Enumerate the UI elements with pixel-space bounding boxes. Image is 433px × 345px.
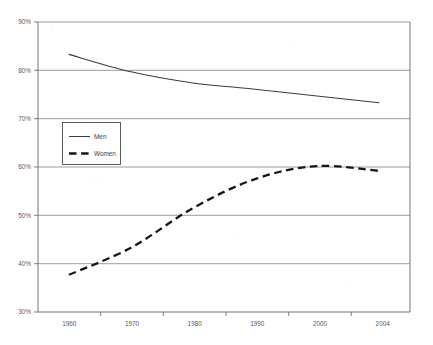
ytick-label-30: 30% xyxy=(18,308,31,315)
y-axis-ticks: 90% 80% 70% 60% 50% 40% 30% xyxy=(18,18,38,315)
xtick-label-1980: 1980 xyxy=(188,320,203,327)
line-chart: 90% 80% 70% 60% 50% 40% 30% 1960 1970 19… xyxy=(0,0,433,345)
ytick-label-60: 60% xyxy=(18,163,31,170)
x-axis-ticks: 1960 1970 1980 1990 2000 2004 xyxy=(62,312,390,327)
xtick-label-2004: 2004 xyxy=(376,320,391,327)
legend-box xyxy=(63,123,121,165)
ytick-label-70: 70% xyxy=(18,115,31,122)
legend-label-women: Women xyxy=(94,150,116,157)
xtick-label-1990: 1990 xyxy=(250,320,265,327)
series-line-women xyxy=(69,166,379,275)
xtick-label-1970: 1970 xyxy=(125,320,140,327)
chart-canvas: 90% 80% 70% 60% 50% 40% 30% 1960 1970 19… xyxy=(0,0,433,345)
xtick-label-1960: 1960 xyxy=(62,320,77,327)
ytick-label-50: 50% xyxy=(18,212,31,219)
ytick-label-90: 90% xyxy=(18,18,31,25)
ytick-label-80: 80% xyxy=(18,67,31,74)
legend: Men Women xyxy=(63,123,121,165)
legend-label-men: Men xyxy=(94,133,107,140)
series-line-men xyxy=(69,54,379,102)
xtick-label-2000: 2000 xyxy=(313,320,328,327)
ytick-label-40: 40% xyxy=(18,260,31,267)
